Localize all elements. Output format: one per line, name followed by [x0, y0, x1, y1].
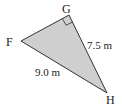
side-label-gh: 7.5 m — [87, 39, 113, 51]
vertex-label-g: G — [62, 2, 71, 16]
vertex-label-h: H — [106, 93, 115, 107]
triangle-fgh — [21, 15, 107, 93]
side-label-fh: 9.0 m — [35, 66, 61, 78]
vertex-label-f: F — [6, 35, 13, 49]
triangle-diagram: G F H 7.5 m 9.0 m — [0, 0, 122, 109]
